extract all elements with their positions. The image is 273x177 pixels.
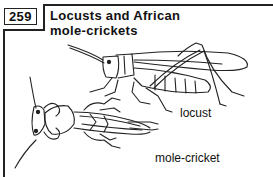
illustration-canvas (0, 0, 273, 177)
locust-drawing (68, 43, 247, 112)
label-mole-cricket: mole-cricket (155, 151, 220, 165)
mole-cricket-drawing (15, 77, 158, 168)
label-locust: locust (180, 106, 211, 120)
